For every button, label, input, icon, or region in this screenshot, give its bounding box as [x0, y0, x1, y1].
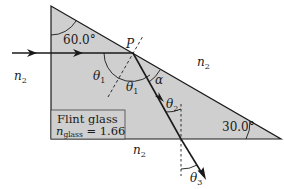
angle-label-30: 30.0° [222, 120, 255, 134]
prism-refraction-diagram: 60.0° 30.0° P θ1 θ1 α θ2 θ3 n2 n2 n2 Fli… [0, 0, 284, 189]
angle-label-60: 60.0° [63, 33, 96, 47]
exit-ray [181, 139, 203, 175]
point-label-p: P [125, 37, 135, 51]
alpha-label: α [155, 73, 163, 87]
medium-label-left: n2 [14, 69, 27, 85]
medium-label-bottom: n2 [133, 143, 146, 159]
angle-arc-theta3 [181, 165, 197, 169]
medium-label-right: n2 [197, 55, 210, 71]
